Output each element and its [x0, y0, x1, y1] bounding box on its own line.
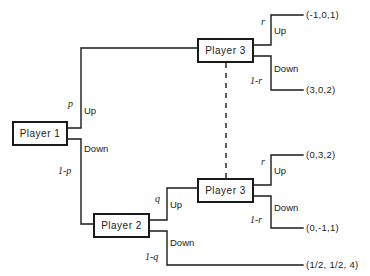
node-player-3-lower-label: Player 3 [205, 185, 246, 196]
probability-p2-up: q [155, 194, 160, 204]
probability-p1-up: p [68, 99, 73, 109]
action-label-p3-lower-up: Up [274, 166, 286, 176]
node-player-3-upper[interactable]: Player 3 [197, 38, 254, 63]
action-label-p1-down: Down [84, 144, 108, 154]
action-label-p2-up: Up [170, 200, 182, 210]
node-player-1[interactable]: Player 1 [12, 121, 68, 146]
payoff-down-down: (1/2, 1/2, 4) [306, 260, 358, 270]
game-tree-diagram: Player 1 Player 2 Player 3 Player 3 Up D… [0, 0, 370, 276]
node-player-2[interactable]: Player 2 [93, 213, 150, 238]
payoff-down-up-down: (0,-1,1) [306, 223, 339, 233]
payoff-up-down: (3,0,2) [306, 85, 336, 95]
probability-p3-upper-up: r [261, 17, 265, 27]
probability-p3-lower-up: r [261, 157, 265, 167]
probability-p3-upper-down: 1-r [250, 76, 262, 86]
node-player-3-upper-label: Player 3 [205, 45, 246, 56]
probability-p3-lower-down: 1-r [250, 215, 262, 225]
action-label-p3-upper-down: Down [274, 64, 298, 74]
action-label-p1-up: Up [84, 106, 96, 116]
node-player-1-label: Player 1 [20, 128, 61, 139]
action-label-p3-upper-up: Up [274, 26, 286, 36]
payoff-up-up: (-1,0,1) [306, 10, 339, 20]
node-player-3-lower[interactable]: Player 3 [197, 178, 254, 203]
node-player-2-label: Player 2 [101, 220, 142, 231]
edge-p1-up [68, 48, 197, 128]
probability-p2-down: 1-q [145, 252, 158, 262]
action-label-p2-down: Down [170, 238, 194, 248]
action-label-p3-lower-down: Down [274, 203, 298, 213]
probability-p1-down: 1-p [58, 166, 71, 176]
payoff-down-up-up: (0,3,2) [306, 150, 336, 160]
